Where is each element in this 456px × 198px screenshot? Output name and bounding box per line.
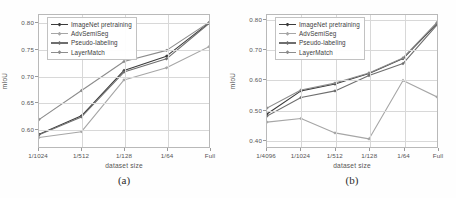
x-tick-label: 1/64 bbox=[397, 152, 409, 159]
legend-item: Pseudo-labeling bbox=[51, 39, 132, 46]
y-axis-label-b: mIoU bbox=[229, 73, 236, 89]
y-tick-label: 0.60 bbox=[249, 76, 262, 83]
x-tick-mark bbox=[438, 148, 439, 151]
x-tick-label: 1/1024 bbox=[28, 152, 48, 159]
legend-item: AdvSemiSeg bbox=[51, 30, 132, 37]
x-tick-label: 1/512 bbox=[73, 152, 89, 159]
gridline-vertical bbox=[370, 15, 371, 147]
x-tick-mark bbox=[300, 148, 301, 151]
legend-label: ImageNet pretraining bbox=[71, 21, 132, 28]
x-tick-mark bbox=[266, 148, 267, 151]
x-tick-label: 1/4096 bbox=[256, 152, 276, 159]
x-axis-label-a: dataset size bbox=[105, 162, 143, 169]
gridline-vertical bbox=[405, 15, 406, 147]
y-axis-a: 0.600.650.700.750.80 bbox=[0, 0, 38, 198]
gridline-horizontal bbox=[39, 130, 209, 131]
y-tick-label: 0.60 bbox=[21, 126, 34, 133]
chart-panel-a: 0.600.650.700.750.80 mIoU 1/10241/5121/1… bbox=[0, 0, 228, 198]
x-tick-mark bbox=[124, 148, 125, 151]
legend-swatch-icon bbox=[279, 49, 296, 56]
gridline-horizontal bbox=[267, 141, 437, 142]
legend-item: ImageNet pretraining bbox=[279, 21, 360, 28]
panel-caption-b: (b) bbox=[346, 174, 359, 186]
gridline-horizontal bbox=[267, 111, 437, 112]
legend-item: Pseudo-labeling bbox=[279, 39, 360, 46]
gridline-vertical bbox=[168, 15, 169, 147]
x-tick-label: 1/64 bbox=[161, 152, 173, 159]
x-tick-label: 1/512 bbox=[327, 152, 343, 159]
x-tick-label: 1/128 bbox=[116, 152, 132, 159]
series-marker bbox=[266, 120, 269, 123]
x-tick-mark bbox=[335, 148, 336, 151]
x-tick-label: Full bbox=[433, 152, 443, 159]
x-tick-label: 1/1024 bbox=[291, 152, 311, 159]
legend-a: ImageNet pretrainingAdvSemiSegPseudo-lab… bbox=[47, 17, 137, 60]
gridline-horizontal bbox=[39, 103, 209, 104]
legend-swatch-icon bbox=[279, 21, 296, 28]
panel-caption-a: (a) bbox=[118, 174, 130, 186]
legend-b: ImageNet pretrainingAdvSemiSegPseudo-lab… bbox=[275, 17, 365, 60]
y-tick-label: 0.50 bbox=[249, 106, 262, 113]
x-tick-label: Full bbox=[205, 152, 215, 159]
legend-item: LayerMatch bbox=[279, 49, 360, 56]
y-axis-b: 0.400.500.600.700.80 bbox=[228, 0, 266, 198]
x-tick-mark bbox=[210, 148, 211, 151]
legend-swatch-icon bbox=[51, 49, 68, 56]
legend-item: AdvSemiSeg bbox=[279, 30, 360, 37]
y-tick-label: 0.80 bbox=[249, 15, 262, 22]
gridline-horizontal bbox=[39, 77, 209, 78]
legend-label: LayerMatch bbox=[71, 49, 105, 56]
x-axis-label-b: dataset size bbox=[333, 162, 371, 169]
y-tick-label: 0.40 bbox=[249, 137, 262, 144]
y-axis-label-a: mIoU bbox=[1, 73, 8, 89]
legend-swatch-icon bbox=[51, 30, 68, 37]
legend-label: LayerMatch bbox=[299, 49, 333, 56]
legend-item: LayerMatch bbox=[51, 49, 132, 56]
legend-swatch-icon bbox=[51, 39, 68, 46]
series-marker bbox=[38, 136, 41, 139]
y-tick-label: 0.65 bbox=[21, 99, 34, 106]
figure-container: 0.600.650.700.750.80 mIoU 1/10241/5121/1… bbox=[0, 0, 456, 198]
y-tick-label: 0.70 bbox=[21, 72, 34, 79]
chart-panel-b: 0.400.500.600.700.80 mIoU 1/40961/10241/… bbox=[228, 0, 456, 198]
y-tick-label: 0.75 bbox=[21, 45, 34, 52]
legend-swatch-icon bbox=[279, 30, 296, 37]
x-tick-mark bbox=[81, 148, 82, 151]
legend-swatch-icon bbox=[51, 21, 68, 28]
legend-item: ImageNet pretraining bbox=[51, 21, 132, 28]
legend-label: AdvSemiSeg bbox=[71, 30, 108, 37]
series-line bbox=[267, 80, 437, 139]
x-tick-label: 1/128 bbox=[361, 152, 377, 159]
legend-label: Pseudo-labeling bbox=[299, 39, 346, 46]
legend-label: AdvSemiSeg bbox=[299, 30, 336, 37]
legend-swatch-icon bbox=[279, 39, 296, 46]
gridline-horizontal bbox=[267, 80, 437, 81]
legend-label: Pseudo-labeling bbox=[71, 39, 118, 46]
x-tick-mark bbox=[167, 148, 168, 151]
x-tick-mark bbox=[369, 148, 370, 151]
x-tick-mark bbox=[404, 148, 405, 151]
y-tick-label: 0.70 bbox=[249, 46, 262, 53]
y-tick-label: 0.80 bbox=[21, 19, 34, 26]
x-tick-mark bbox=[38, 148, 39, 151]
legend-label: ImageNet pretraining bbox=[299, 21, 360, 28]
